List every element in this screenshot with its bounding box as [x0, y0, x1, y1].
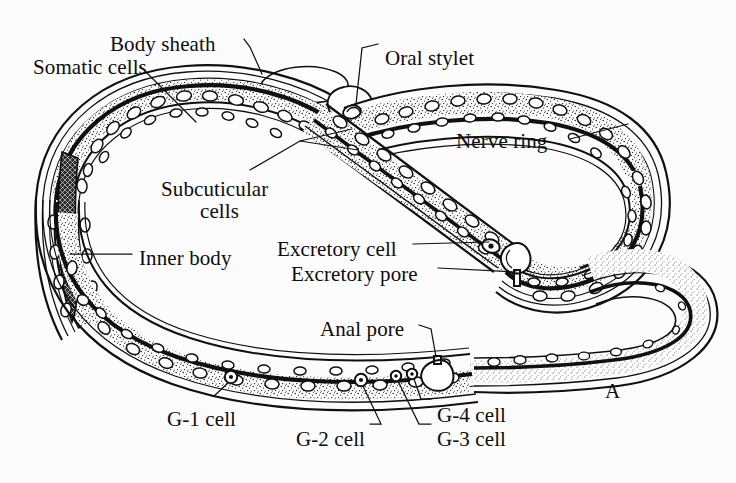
label-subcuticular-cells-line1: Subcuticular — [161, 178, 268, 201]
label-body-sheath: Body sheath — [110, 33, 216, 56]
label-subcuticular-cells-line2: cells — [200, 200, 239, 223]
nematode-anatomy-figure: Body sheath Somatic cells Oral stylet Ne… — [0, 0, 736, 483]
label-excretory-pore: Excretory pore — [291, 263, 418, 286]
right-loop-segment — [480, 150, 690, 320]
label-oral-stylet: Oral stylet — [385, 47, 474, 70]
label-nerve-ring: Nerve ring — [456, 130, 547, 153]
label-g4-cell: G-4 cell — [437, 404, 506, 427]
label-inner-body: Inner body — [139, 247, 232, 270]
label-g1-cell: G-1 cell — [167, 408, 236, 431]
label-excretory-cell: Excretory cell — [277, 238, 397, 261]
bottom-body-segment — [30, 200, 490, 420]
label-somatic-cells: Somatic cells — [33, 56, 147, 79]
label-g2-cell: G-2 cell — [296, 428, 365, 451]
label-anal-pore: Anal pore — [320, 318, 404, 341]
label-g3-cell: G-3 cell — [437, 428, 506, 451]
panel-letter: A — [605, 380, 621, 403]
